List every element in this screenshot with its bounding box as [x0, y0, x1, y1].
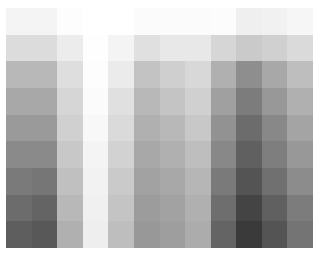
heatmap-cell — [185, 141, 211, 168]
heatmap-cell — [185, 88, 211, 115]
heatmap-cell — [83, 141, 109, 168]
heatmap-cell — [236, 115, 262, 142]
heatmap-cell — [6, 88, 32, 115]
heatmap-cell — [6, 8, 32, 35]
heatmap-cell — [83, 61, 109, 88]
heatmap-cell — [57, 8, 83, 35]
heatmap-cell — [32, 195, 58, 222]
heatmap-cell — [83, 195, 109, 222]
heatmap-cell — [211, 61, 237, 88]
heatmap-cell — [185, 8, 211, 35]
heatmap-cell — [32, 88, 58, 115]
heatmap-cell — [185, 61, 211, 88]
heatmap-cell — [262, 168, 288, 195]
heatmap-cell — [262, 195, 288, 222]
heatmap-cell — [185, 35, 211, 62]
heatmap-cell — [108, 168, 134, 195]
heatmap-cell — [6, 221, 32, 248]
heatmap-cell — [262, 115, 288, 142]
heatmap-cell — [185, 168, 211, 195]
heatmap-cell — [262, 61, 288, 88]
heatmap-cell — [211, 221, 237, 248]
heatmap-cell — [57, 35, 83, 62]
heatmap-cell — [83, 168, 109, 195]
heatmap-cell — [185, 195, 211, 222]
heatmap-cell — [236, 168, 262, 195]
heatmap-cell — [32, 8, 58, 35]
heatmap-cell — [134, 168, 160, 195]
heatmap-cell — [83, 221, 109, 248]
heatmap-cell — [6, 141, 32, 168]
heatmap-cell — [287, 141, 313, 168]
heatmap-cell — [236, 195, 262, 222]
heatmap-cell — [134, 61, 160, 88]
heatmap-cell — [287, 115, 313, 142]
heatmap-cell — [236, 61, 262, 88]
heatmap-cell — [236, 141, 262, 168]
heatmap-cell — [108, 221, 134, 248]
heatmap-cell — [134, 88, 160, 115]
heatmap-cell — [236, 88, 262, 115]
heatmap-cell — [32, 221, 58, 248]
heatmap-cell — [83, 88, 109, 115]
heatmap-cell — [108, 195, 134, 222]
heatmap-cell — [57, 141, 83, 168]
heatmap-cell — [160, 141, 186, 168]
heatmap-cell — [287, 61, 313, 88]
heatmap-cell — [160, 8, 186, 35]
heatmap-cell — [211, 141, 237, 168]
heatmap-cell — [287, 168, 313, 195]
heatmap-cell — [160, 195, 186, 222]
heatmap-cell — [108, 115, 134, 142]
heatmap-cell — [262, 35, 288, 62]
heatmap-cell — [6, 195, 32, 222]
heatmap-cell — [160, 221, 186, 248]
heatmap-cell — [211, 88, 237, 115]
heatmap-cell — [83, 8, 109, 35]
heatmap-cell — [160, 168, 186, 195]
heatmap-cell — [57, 221, 83, 248]
heatmap-cell — [262, 88, 288, 115]
heatmap-cell — [160, 35, 186, 62]
heatmap-cell — [57, 88, 83, 115]
heatmap-cell — [32, 61, 58, 88]
heatmap-cell — [6, 168, 32, 195]
heatmap-cell — [211, 8, 237, 35]
heatmap-cell — [134, 141, 160, 168]
heatmap-cell — [134, 195, 160, 222]
heatmap-cell — [160, 115, 186, 142]
grayscale-heatmap — [6, 8, 313, 248]
heatmap-cell — [287, 88, 313, 115]
heatmap-cell — [6, 61, 32, 88]
heatmap-cell — [32, 168, 58, 195]
heatmap-cell — [83, 115, 109, 142]
heatmap-cell — [108, 61, 134, 88]
heatmap-cell — [32, 115, 58, 142]
heatmap-cell — [262, 141, 288, 168]
heatmap-cell — [6, 115, 32, 142]
heatmap-cell — [185, 221, 211, 248]
heatmap-cell — [6, 35, 32, 62]
heatmap-cell — [108, 8, 134, 35]
heatmap-cell — [236, 8, 262, 35]
heatmap-cell — [57, 61, 83, 88]
heatmap-cell — [262, 8, 288, 35]
heatmap-cell — [32, 35, 58, 62]
heatmap-cell — [57, 115, 83, 142]
heatmap-cell — [108, 141, 134, 168]
heatmap-cell — [211, 115, 237, 142]
heatmap-cell — [287, 221, 313, 248]
heatmap-cell — [160, 61, 186, 88]
heatmap-cell — [236, 221, 262, 248]
heatmap-cell — [287, 8, 313, 35]
heatmap-cell — [236, 35, 262, 62]
heatmap-cell — [108, 88, 134, 115]
heatmap-cell — [134, 115, 160, 142]
heatmap-cell — [211, 35, 237, 62]
heatmap-cell — [32, 141, 58, 168]
heatmap-cell — [211, 168, 237, 195]
heatmap-cell — [134, 35, 160, 62]
heatmap-cell — [185, 115, 211, 142]
heatmap-cell — [160, 88, 186, 115]
heatmap-cell — [134, 8, 160, 35]
